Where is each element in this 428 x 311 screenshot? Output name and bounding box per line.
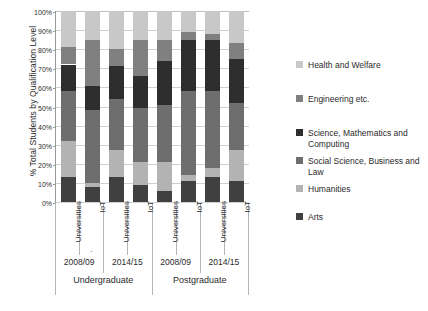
legend-item[interactable]: Engineering etc. xyxy=(296,94,426,105)
legend-item-label: Science, Mathematics and Computing xyxy=(308,128,426,150)
bar-segment[interactable] xyxy=(85,86,100,111)
stacked-bar-chart: % Total Students by Qualification Level … xyxy=(0,0,428,311)
bar-segment[interactable] xyxy=(229,43,244,58)
y-axis-tick-label: 30% xyxy=(38,142,52,149)
bar-segment[interactable] xyxy=(85,187,100,202)
bar-category-label: Universities xyxy=(216,201,231,253)
bar-segment[interactable] xyxy=(229,181,244,202)
bar-segment[interactable] xyxy=(133,162,148,185)
bar-segment[interactable] xyxy=(205,91,220,167)
year-group-label: 2014/15 xyxy=(200,257,248,267)
bar-category-label: Universities xyxy=(71,201,86,253)
bar-segment[interactable] xyxy=(133,185,148,202)
year-group-label: 2014/15 xyxy=(103,257,151,267)
bar-segment[interactable] xyxy=(205,11,220,34)
category-axis: UniversitiesIoTUniversitiesIoTUniversiti… xyxy=(55,203,249,303)
legend-swatch-icon xyxy=(296,185,303,192)
legend-item[interactable]: Arts xyxy=(296,212,426,223)
y-axis-tick-label: 100% xyxy=(34,9,52,16)
bar-segment[interactable] xyxy=(157,162,172,191)
bar-category-label: IoT xyxy=(240,201,255,253)
bar-segment[interactable] xyxy=(61,91,76,141)
bar-segment[interactable] xyxy=(133,11,148,40)
plot-area: 0%10%20%30%40%50%60%70%80%90%100% xyxy=(55,11,249,203)
bar-column[interactable] xyxy=(109,11,124,202)
year-group-label: 2008/09 xyxy=(55,257,103,267)
bar-segment[interactable] xyxy=(109,11,124,49)
legend-item-label: Engineering etc. xyxy=(308,94,369,105)
stray-mark: . xyxy=(90,245,92,254)
legend-item-label: Social Science, Business and Law xyxy=(308,156,426,178)
bar-segment[interactable] xyxy=(229,59,244,103)
bar-segment[interactable] xyxy=(181,40,196,92)
bar-segment[interactable] xyxy=(229,150,244,181)
bar-segment[interactable] xyxy=(181,175,196,181)
legend-item[interactable]: Humanities xyxy=(296,184,426,195)
bar-segment[interactable] xyxy=(181,32,196,40)
bar-segment[interactable] xyxy=(157,105,172,162)
y-axis-tick-label: 20% xyxy=(38,161,52,168)
y-axis-tick-label: 0% xyxy=(42,200,52,207)
bar-segment[interactable] xyxy=(109,49,124,66)
legend-swatch-icon xyxy=(296,157,303,164)
bar-segment[interactable] xyxy=(181,11,196,32)
bar-category-label: IoT xyxy=(143,201,158,253)
y-axis-tick-label: 40% xyxy=(38,123,52,130)
bar-column[interactable] xyxy=(157,11,172,202)
bar-category-label: Universities xyxy=(168,201,183,253)
qualification-level-group-label: Undergraduate xyxy=(55,275,151,285)
bar-segment[interactable] xyxy=(205,40,220,92)
bar-segment[interactable] xyxy=(205,34,220,40)
legend-item-label: Humanities xyxy=(308,184,351,195)
bar-column[interactable] xyxy=(61,11,76,202)
bar-segment[interactable] xyxy=(85,110,100,183)
bar-segment[interactable] xyxy=(61,141,76,177)
bar-segment[interactable] xyxy=(85,40,100,86)
bar-segment[interactable] xyxy=(157,11,172,40)
bar-segment[interactable] xyxy=(181,91,196,175)
bar-column[interactable] xyxy=(133,11,148,202)
y-axis-tick-label: 60% xyxy=(38,85,52,92)
bar-segment[interactable] xyxy=(181,181,196,202)
legend-item[interactable]: Science, Mathematics and Computing xyxy=(296,128,426,150)
legend-swatch-icon xyxy=(296,95,303,102)
bar-category-label: Universities xyxy=(119,201,134,253)
bar-segment[interactable] xyxy=(61,11,76,47)
bar-segment[interactable] xyxy=(61,177,76,202)
bar-segment[interactable] xyxy=(61,65,76,92)
qualification-level-group-label: Postgraduate xyxy=(152,275,248,285)
legend-item-label: Health and Welfare xyxy=(308,60,381,71)
year-group-label: 2008/09 xyxy=(152,257,200,267)
bar-segment[interactable] xyxy=(229,103,244,151)
bar-segment[interactable] xyxy=(85,11,100,40)
bar-column[interactable] xyxy=(205,11,220,202)
bar-segment[interactable] xyxy=(133,108,148,161)
bar-column[interactable] xyxy=(181,11,196,202)
bar-segment[interactable] xyxy=(133,40,148,76)
legend-item-label: Arts xyxy=(308,212,323,223)
y-axis-tick-label: 50% xyxy=(38,104,52,111)
bar-segment[interactable] xyxy=(109,66,124,98)
bar-segment[interactable] xyxy=(85,183,100,187)
bar-segment[interactable] xyxy=(157,40,172,61)
bar-segment[interactable] xyxy=(205,177,220,202)
bar-segment[interactable] xyxy=(61,47,76,64)
bar-segment[interactable] xyxy=(109,99,124,151)
bar-column[interactable] xyxy=(85,11,100,202)
bar-segment[interactable] xyxy=(109,177,124,202)
legend-item[interactable]: Health and Welfare xyxy=(296,60,426,71)
y-axis-tick-label: 90% xyxy=(38,28,52,35)
y-axis-tick-label: 10% xyxy=(38,180,52,187)
legend-swatch-icon xyxy=(296,61,303,68)
bar-segment[interactable] xyxy=(109,150,124,177)
bar-segment[interactable] xyxy=(229,11,244,43)
bar-category-label: IoT xyxy=(192,201,207,253)
bar-segment[interactable] xyxy=(157,61,172,105)
y-axis-title: % Total Students by Qualification Level xyxy=(28,6,38,196)
legend-item[interactable]: Social Science, Business and Law xyxy=(296,156,426,178)
legend-swatch-icon xyxy=(296,129,303,136)
y-axis-tick-label: 70% xyxy=(38,66,52,73)
bar-segment[interactable] xyxy=(133,76,148,108)
bar-segment[interactable] xyxy=(205,168,220,178)
bar-column[interactable] xyxy=(229,11,244,202)
